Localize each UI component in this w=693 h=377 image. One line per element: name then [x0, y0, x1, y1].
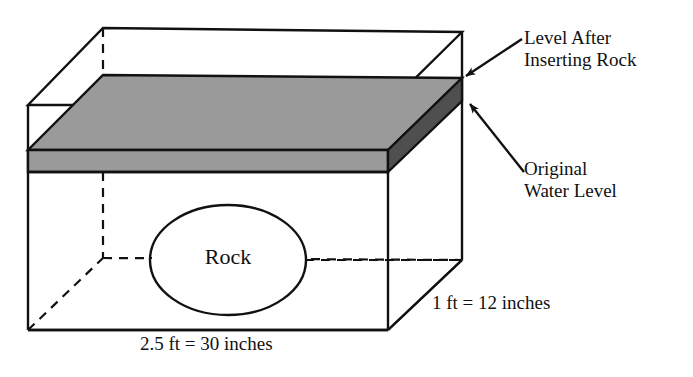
water-front-face — [28, 150, 388, 172]
arrow-original-level — [470, 104, 524, 172]
label-rock: Rock — [150, 244, 306, 270]
diagram-canvas: Level After Inserting Rock Original Wate… — [0, 0, 693, 377]
water-top-surface — [28, 75, 462, 150]
water-slab-group — [28, 75, 462, 172]
hidden-edge-floor-left — [28, 258, 103, 330]
label-level-after-inserting-rock: Level After Inserting Rock — [524, 27, 636, 72]
label-tank-depth: 1 ft = 12 inches — [432, 292, 550, 314]
label-original-water-level: Original Water Level — [524, 158, 617, 203]
arrow-level-after — [466, 39, 522, 76]
label-tank-width: 2.5 ft = 30 inches — [140, 333, 273, 355]
